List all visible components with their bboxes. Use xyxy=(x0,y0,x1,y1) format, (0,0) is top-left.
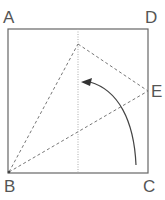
label-b: B xyxy=(4,177,15,196)
label-d: D xyxy=(145,8,157,27)
fold-direction-arrow xyxy=(90,82,136,165)
label-e: E xyxy=(151,82,162,101)
square-abcd xyxy=(8,29,148,173)
fold-line-b-to-fold-point xyxy=(9,44,78,172)
label-a: A xyxy=(3,8,15,27)
fold-diagram: A D E B C xyxy=(0,0,165,200)
arrowhead-icon xyxy=(81,78,92,86)
point-b-dot xyxy=(8,171,11,174)
label-c: C xyxy=(143,177,155,196)
